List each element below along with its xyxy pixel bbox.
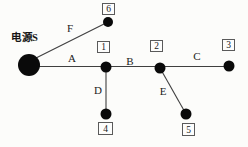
- node-6-dot: [103, 17, 113, 27]
- edge-E-label: E: [160, 86, 167, 97]
- node-6-label: 6: [106, 4, 111, 14]
- edge-C-label: C: [193, 51, 200, 62]
- node-3-box: 3: [222, 39, 235, 51]
- node-5-box: 5: [182, 123, 195, 136]
- node-1-dot: [101, 62, 112, 73]
- power-source-label: 电源S: [11, 33, 38, 44]
- diagram-canvas: [0, 0, 248, 147]
- node-2-box: 2: [150, 40, 163, 52]
- node-1-box: 1: [97, 41, 110, 53]
- node-4-dot: [101, 109, 112, 120]
- node-3-label: 3: [226, 40, 231, 50]
- node-4-box: 4: [98, 122, 113, 135]
- node-3-dot: [224, 61, 235, 72]
- edge-A-label: A: [68, 53, 76, 64]
- node-6-box: 6: [102, 3, 115, 15]
- power-source-circle: [18, 54, 40, 76]
- node-5-dot: [181, 109, 192, 120]
- network-diagram: 电源S 1 2 3 4 5 6 A B C D E F: [0, 0, 248, 147]
- node-4-label: 4: [103, 124, 108, 134]
- edge-B-label: B: [126, 56, 133, 67]
- node-2-dot: [155, 63, 166, 74]
- node-1-label: 1: [101, 42, 106, 52]
- edge-D-label: D: [94, 85, 102, 96]
- edge-F-label: F: [67, 23, 73, 34]
- node-5-label: 5: [186, 125, 191, 135]
- node-2-label: 2: [154, 41, 159, 51]
